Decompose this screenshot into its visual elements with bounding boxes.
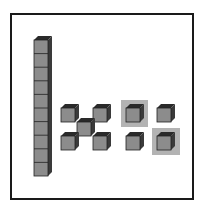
rod-cubes	[34, 36, 52, 176]
tens-rod	[0, 0, 205, 200]
